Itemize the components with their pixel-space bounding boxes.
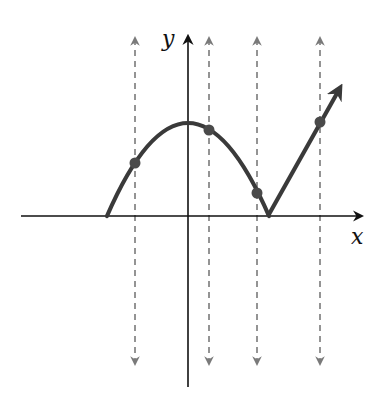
intersection-point-4 xyxy=(315,117,326,128)
intersection-point-2 xyxy=(204,125,215,136)
intersection-point-3 xyxy=(252,188,263,199)
function-ray xyxy=(268,88,340,216)
vertical-line-test-graph xyxy=(0,0,386,402)
x-axis-label: x xyxy=(351,226,363,248)
y-axis-label: y xyxy=(162,28,174,50)
intersection-point-1 xyxy=(130,158,141,169)
vertical-test-lines xyxy=(135,38,320,364)
intersection-points xyxy=(130,117,326,199)
